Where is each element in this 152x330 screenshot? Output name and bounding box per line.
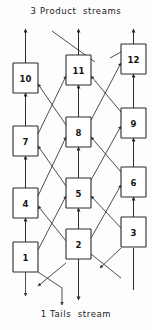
stage-label-1: 1 [23, 253, 29, 263]
stage-label-4: 4 [23, 199, 29, 209]
process-flow-diagram: 3 Product streams [0, 0, 152, 330]
flow-canvas: 1 2 3 4 5 6 7 [0, 0, 152, 330]
tails-stream-label: 1 Tails stream [0, 309, 152, 319]
stage-label-8: 8 [76, 128, 82, 138]
stage-box-11[interactable]: 11 [66, 55, 91, 85]
stage-box-12[interactable]: 12 [121, 44, 146, 74]
stage-label-7: 7 [23, 137, 29, 147]
stage-label-3: 3 [131, 228, 137, 238]
stage-box-2[interactable]: 2 [66, 229, 91, 259]
stage-label-11: 11 [73, 66, 85, 76]
stage-box-4[interactable]: 4 [13, 188, 38, 218]
stage-box-3[interactable]: 3 [121, 217, 146, 247]
stage-label-10: 10 [20, 74, 32, 84]
stage-label-2: 2 [76, 240, 82, 250]
stage-box-10[interactable]: 10 [13, 63, 38, 93]
stage-box-1[interactable]: 1 [13, 242, 38, 272]
stage-label-6: 6 [131, 178, 137, 188]
stage-label-12: 12 [128, 55, 140, 65]
stage-boxes-group: 1 2 3 4 5 6 7 [13, 44, 146, 272]
stage-label-5: 5 [76, 189, 82, 199]
stage-label-9: 9 [131, 119, 137, 129]
stage-box-5[interactable]: 5 [66, 178, 91, 208]
stage-box-6[interactable]: 6 [121, 167, 146, 197]
stage-box-8[interactable]: 8 [66, 117, 91, 147]
stage-box-7[interactable]: 7 [13, 126, 38, 156]
stage-box-9[interactable]: 9 [121, 108, 146, 138]
